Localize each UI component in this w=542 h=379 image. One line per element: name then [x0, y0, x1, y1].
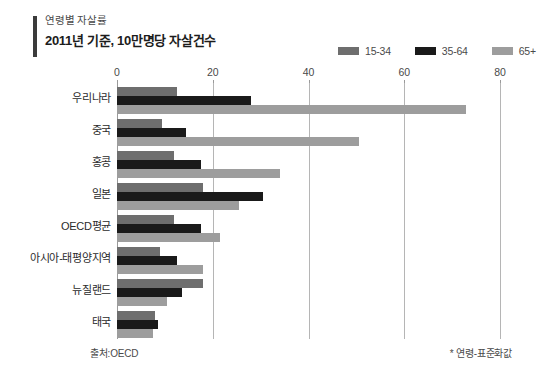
category-label: 일본: [0, 188, 111, 201]
y-axis-category-labels: 우리나라중국홍콩일본OECD평균아시아-태평양지역뉴질랜드태국: [0, 83, 111, 339]
title-accent-rule: [33, 16, 37, 57]
bar-group: [117, 307, 500, 339]
plot-area: [117, 83, 500, 339]
x-axis: 020406080: [117, 66, 500, 82]
bar-35-64: [117, 128, 186, 137]
bar-65plus: [117, 169, 280, 178]
legend-label: 15-34: [365, 45, 391, 57]
bar-35-64: [117, 96, 251, 105]
bar-group: [117, 147, 500, 179]
category-label: 뉴질랜드: [0, 284, 111, 297]
bar-35-64: [117, 320, 158, 329]
chart-kicker: 연령별 자살률: [45, 14, 107, 27]
legend-item-65plus: 65+: [492, 45, 536, 57]
bar-15-34: [117, 151, 174, 160]
chart-page: 연령별 자살률 2011년 기준, 10만명당 자살건수 15-3435-646…: [0, 0, 542, 379]
bar-15-34: [117, 311, 155, 320]
bar-group: [117, 211, 500, 243]
x-tick-label: 0: [114, 66, 120, 78]
bar-15-34: [117, 183, 203, 192]
legend-label: 35-64: [442, 45, 468, 57]
source-note: 출처:OECD: [90, 345, 138, 360]
legend-item-35-64: 35-64: [415, 45, 468, 57]
bar-group: [117, 243, 500, 275]
bar-35-64: [117, 160, 201, 169]
bar-65plus: [117, 265, 203, 274]
gridline: [500, 83, 501, 339]
category-label: 우리나라: [0, 92, 111, 105]
category-label: OECD평균: [0, 220, 111, 233]
bar-15-34: [117, 279, 203, 288]
bar-group: [117, 83, 500, 115]
x-tick-label: 20: [207, 66, 219, 78]
x-tick-label: 60: [398, 66, 410, 78]
bar-65plus: [117, 105, 466, 114]
category-label: 중국: [0, 124, 111, 137]
category-label: 홍콩: [0, 156, 111, 169]
legend-swatch-icon: [492, 47, 513, 55]
legend-swatch-icon: [338, 47, 359, 55]
method-note: * 연령-표준화값: [450, 345, 512, 360]
category-label: 아시아-태평양지역: [0, 252, 111, 265]
bar-15-34: [117, 119, 162, 128]
bar-group: [117, 275, 500, 307]
bar-35-64: [117, 288, 182, 297]
bar-group: [117, 179, 500, 211]
chart-subtitle: 2011년 기준, 10만명당 자살건수: [45, 32, 216, 49]
bar-65plus: [117, 137, 359, 146]
bar-35-64: [117, 256, 177, 265]
bar-35-64: [117, 224, 201, 233]
legend-swatch-icon: [415, 47, 436, 55]
bar-15-34: [117, 247, 160, 256]
bar-35-64: [117, 192, 263, 201]
bar-group: [117, 115, 500, 147]
bar-65plus: [117, 201, 239, 210]
category-label: 태국: [0, 316, 111, 329]
chart-legend: 15-3435-6465+: [338, 44, 536, 58]
bar-15-34: [117, 215, 174, 224]
bar-65plus: [117, 233, 220, 242]
bar-15-34: [117, 87, 177, 96]
legend-label: 65+: [519, 45, 536, 57]
x-tick-label: 40: [303, 66, 315, 78]
bar-65plus: [117, 329, 153, 338]
bar-65plus: [117, 297, 167, 306]
x-tick-label: 80: [494, 66, 506, 78]
legend-item-15-34: 15-34: [338, 45, 391, 57]
